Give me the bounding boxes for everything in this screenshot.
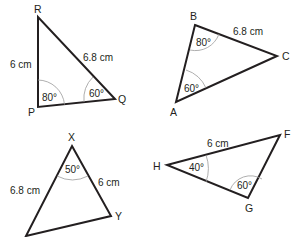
vertex-label-c: C (282, 50, 290, 62)
vertex-label-p: P (28, 106, 35, 118)
vertex-label-h: H (153, 160, 161, 172)
triangles-diagram: R P Q 6 cm 6.8 cm 80° 60° B C A 6.8 cm 8… (0, 0, 299, 237)
vertex-label-b: B (190, 10, 197, 22)
side-label-pr: 6 cm (10, 59, 32, 70)
vertex-label-y: Y (115, 210, 122, 222)
triangle-fgh: H F G 6 cm 40° 60° (153, 128, 290, 214)
side-label-xy: 6 cm (98, 177, 120, 188)
angle-arc-h (206, 155, 208, 182)
triangle-abc: B C A 6.8 cm 80° 60° (170, 10, 290, 118)
vertex-label-f: F (284, 128, 290, 140)
side-label-bc: 6.8 cm (233, 26, 263, 37)
side-label-x-left: 6.8 cm (10, 185, 40, 196)
angle-arc-x (57, 176, 88, 180)
side-label-rq: 6.8 cm (83, 52, 113, 63)
vertex-label-r: R (34, 3, 42, 15)
vertex-label-a: A (170, 106, 177, 118)
triangle-pqr: R P Q 6 cm 6.8 cm 80° 60° (10, 3, 126, 118)
angle-label-x: 50° (65, 164, 80, 175)
angle-label-q: 60° (89, 88, 104, 99)
vertex-label-x: X (68, 131, 75, 143)
angle-label-p: 80° (42, 92, 57, 103)
angle-label-b: 80° (196, 37, 211, 48)
vertex-label-g: G (245, 202, 253, 214)
angle-label-g: 60° (237, 180, 252, 191)
triangle-xy: X Y 6.8 cm 6 cm 50° (10, 131, 122, 236)
vertex-label-q: Q (118, 93, 126, 105)
angle-label-h: 40° (189, 162, 204, 173)
side-label-hf: 6 cm (207, 138, 229, 149)
angle-label-a: 60° (184, 83, 199, 94)
